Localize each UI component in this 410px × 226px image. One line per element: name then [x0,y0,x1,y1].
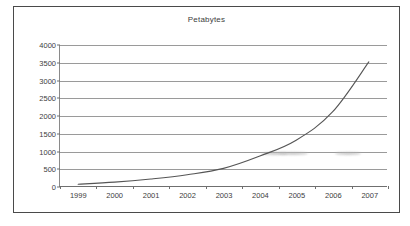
x-tick-mark-3 [169,186,170,189]
data-series-line [60,45,387,186]
y-tick-label-1500: 1500 [39,129,56,138]
x-tick-mark-9 [388,186,389,189]
chart-frame: Petabytes 050010001500200025003000350040… [13,6,400,213]
y-tick-label-0: 0 [52,183,56,192]
x-tick-mark-7 [315,186,316,189]
x-tick-label-2003: 2003 [216,191,233,200]
x-tick-mark-0 [60,186,61,189]
y-tick-label-3500: 3500 [39,58,56,67]
x-tick-mark-4 [206,186,207,189]
y-tick-label-2500: 2500 [39,94,56,103]
y-tick-label-3000: 3000 [39,76,56,85]
x-tick-mark-6 [279,186,280,189]
chart-title: Petabytes [14,15,399,24]
x-tick-label-1999: 1999 [70,191,87,200]
x-tick-mark-8 [352,186,353,189]
x-tick-label-2001: 2001 [143,191,160,200]
y-tick-label-500: 500 [43,165,56,174]
x-tick-label-2007: 2007 [361,191,378,200]
x-tick-label-2000: 2000 [106,191,123,200]
x-tick-label-2004: 2004 [252,191,269,200]
y-tick-label-4000: 4000 [39,41,56,50]
x-tick-mark-5 [242,186,243,189]
y-tick-label-2000: 2000 [39,112,56,121]
plot-area: 05001000150020002500300035004000 1999200… [59,45,387,187]
x-tick-mark-2 [133,186,134,189]
x-tick-label-2005: 2005 [289,191,306,200]
x-tick-mark-1 [96,186,97,189]
x-tick-label-2002: 2002 [179,191,196,200]
y-tick-label-1000: 1000 [39,147,56,156]
x-tick-label-2006: 2006 [325,191,342,200]
